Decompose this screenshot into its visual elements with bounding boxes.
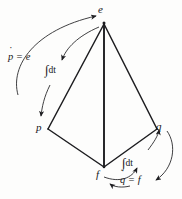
q-dot-relation: = xyxy=(129,174,135,185)
integral-differential-left: dt xyxy=(49,65,56,75)
edge-e-p xyxy=(48,24,104,129)
integral-sign-left: ∫ xyxy=(45,62,49,77)
equation-q-dot-equals-f: q=f xyxy=(120,175,141,186)
arrow-q-to-f xyxy=(156,131,173,180)
tetrahedron-diagram xyxy=(0,0,182,199)
vertex-label-momentum: p xyxy=(36,122,42,133)
p-dot-rhs: e xyxy=(26,51,31,62)
figure-canvas: e p q f p=e ∫dt ∫dt q=f xyxy=(0,0,182,199)
vertex-label-flow: f xyxy=(96,169,99,180)
arrow-f-to-q-head xyxy=(148,130,159,150)
integral-differential-right: dt xyxy=(126,158,133,168)
edge-e-q xyxy=(104,24,157,129)
vertex-dot-f xyxy=(103,166,106,169)
q-dot-rhs: f xyxy=(138,174,141,185)
p-dot-relation: = xyxy=(17,51,23,62)
p-dot-variable: p xyxy=(8,52,14,63)
edge-p-f xyxy=(48,129,104,167)
q-dot-variable: q xyxy=(120,175,126,186)
operator-integral-left: ∫dt xyxy=(45,62,56,76)
equation-p-dot-equals-e: p=e xyxy=(8,52,31,63)
vertex-dot-e xyxy=(103,22,106,25)
tetrahedron-edges xyxy=(48,24,157,167)
vertex-label-effort: e xyxy=(98,4,103,15)
vertex-label-displacement: q xyxy=(156,121,162,132)
arrow-e-to-p-tail xyxy=(41,85,50,116)
